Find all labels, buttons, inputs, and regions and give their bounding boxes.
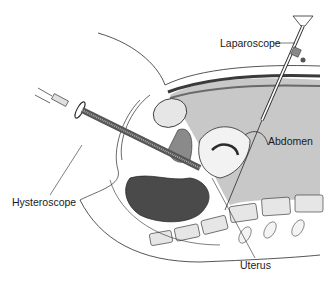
hysteroscope-label: Hysteroscope — [12, 197, 76, 208]
abdomen-label: Abdomen — [268, 136, 313, 147]
medical-illustration: Laparoscope Abdomen Hysteroscope Uterus — [0, 0, 331, 281]
laparoscope-label: Laparoscope — [220, 38, 281, 49]
uterus-label: Uterus — [240, 260, 271, 271]
